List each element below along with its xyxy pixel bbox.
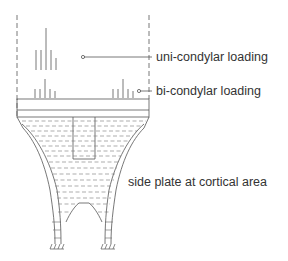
label-uni-condylar: uni-condylar loading [156, 51, 268, 64]
uni-condylar-arrows-icon [36, 28, 56, 70]
central-slot [73, 117, 95, 159]
mesh-hatching [22, 121, 146, 212]
tibial-block [17, 99, 149, 117]
label-bi-condylar: bi-condylar loading [156, 85, 261, 98]
support-feet-icon [50, 244, 115, 249]
side-plate-left [22, 124, 61, 244]
intercondylar-notch [66, 203, 102, 222]
label-side-plate: side plate at cortical area [128, 176, 267, 189]
bi-condylar-arrows-right-icon [113, 79, 133, 98]
femur-fe-model-diagram [0, 0, 288, 261]
bi-condylar-arrows-left-icon [35, 79, 55, 98]
